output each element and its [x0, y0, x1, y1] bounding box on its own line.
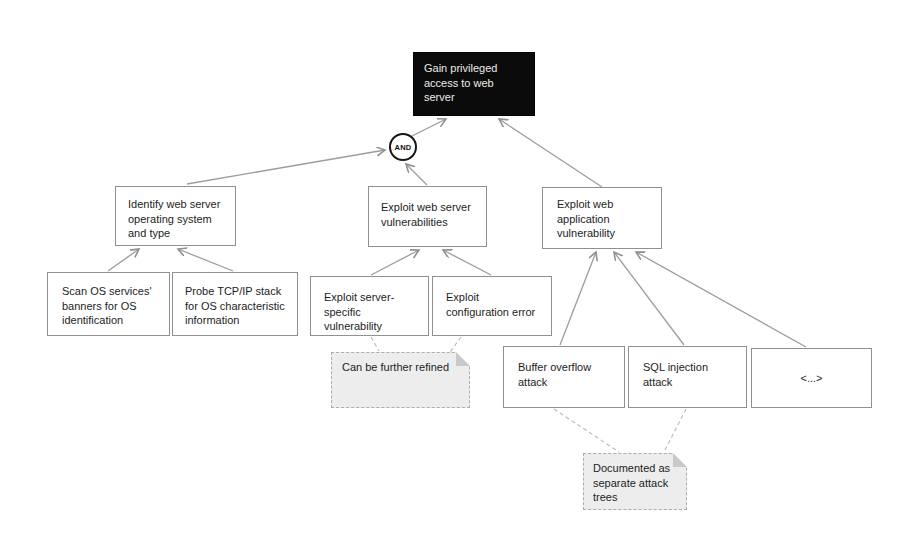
node-label: <...> [800, 371, 822, 386]
node-placeholder-subtree: <...> [751, 348, 872, 408]
attack-tree-diagram: Gain privileged access to web server AND… [0, 0, 921, 533]
node-label: Identify web server operating system and… [128, 198, 220, 239]
note-label: Documented as separate attack trees [593, 462, 670, 503]
node-label: Exploit server-specific vulnerability [324, 291, 394, 332]
and-gate-label: AND [395, 143, 412, 152]
node-label: Gain privileged access to web server [424, 62, 497, 103]
edge-config-to-exploitserver [443, 250, 491, 275]
note-documented-separate-trees: Documented as separate attack trees [583, 453, 687, 510]
node-label: Buffer overflow attack [518, 361, 591, 388]
and-gate: AND [389, 133, 417, 161]
edge-note-doc-a [554, 409, 619, 452]
node-label: Exploit web application vulnerability [557, 198, 615, 239]
edge-buffer-to-exploitapp [560, 252, 596, 345]
edge-exploitapp-to-root [499, 119, 602, 187]
node-sql-injection-attack: SQL injection attack [628, 346, 747, 408]
node-exploit-server-specific-vulnerability: Exploit server-specific vulnerability [310, 276, 429, 336]
edge-placeholder-to-exploitapp [636, 252, 806, 347]
node-exploit-web-application-vulnerability: Exploit web application vulnerability [542, 187, 662, 249]
edge-sql-to-exploitapp [614, 252, 684, 345]
node-label: Exploit web server vulnerabilities [381, 201, 471, 228]
note-can-be-further-refined: Can be further refined [331, 352, 470, 408]
edge-identify-to-and [187, 150, 385, 184]
node-scan-os-banners: Scan OS services' banners for OS identif… [47, 272, 170, 336]
node-buffer-overflow-attack: Buffer overflow attack [503, 346, 625, 408]
edge-exploitserver-to-and [406, 164, 427, 185]
edge-probe-to-identify [178, 249, 233, 271]
edge-and-to-root [412, 119, 446, 136]
edge-scan-to-identify [108, 249, 139, 271]
node-probe-tcpip-stack: Probe TCP/IP stack for OS characteristic… [172, 272, 298, 336]
node-label: Exploit configuration error [446, 291, 535, 318]
edge-note-refine-a [371, 337, 379, 351]
node-label: Scan OS services' banners for OS identif… [62, 285, 152, 326]
node-gain-privileged-access: Gain privileged access to web server [413, 52, 535, 116]
node-label: Probe TCP/IP stack for OS characteristic… [185, 285, 285, 326]
note-label: Can be further refined [342, 361, 449, 373]
edge-specific-to-exploitserver [371, 250, 419, 275]
node-label: SQL injection attack [643, 361, 708, 388]
node-exploit-configuration-error: Exploit configuration error [432, 276, 552, 336]
node-identify-os: Identify web server operating system and… [115, 186, 236, 246]
node-exploit-web-server-vulnerabilities: Exploit web server vulnerabilities [368, 186, 487, 247]
edge-note-doc-b [664, 409, 686, 452]
